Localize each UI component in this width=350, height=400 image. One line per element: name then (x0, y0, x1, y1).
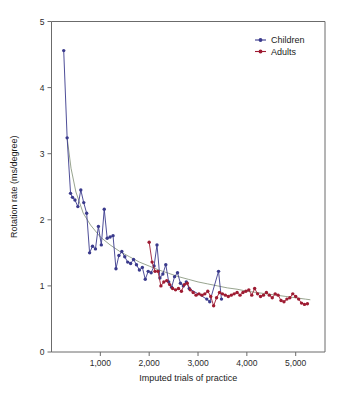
data-point-children (120, 250, 123, 253)
data-point-adults (282, 300, 285, 303)
data-point-adults (159, 284, 162, 287)
data-point-adults (276, 293, 279, 296)
x-tick-label-1,000: 1,000 (90, 358, 112, 368)
data-point-adults (156, 270, 159, 273)
legend-marker-children (259, 38, 263, 42)
x-tick-label-3,000: 3,000 (187, 358, 209, 368)
data-point-children (114, 267, 117, 270)
data-point-adults (150, 260, 153, 263)
data-point-adults (206, 289, 209, 292)
data-point-children (88, 251, 91, 254)
data-point-adults (291, 292, 294, 295)
data-point-children (94, 247, 97, 250)
data-point-adults (153, 270, 156, 273)
data-point-adults (241, 291, 244, 294)
data-point-children (176, 271, 179, 274)
data-point-children (208, 300, 211, 303)
data-point-adults (224, 293, 227, 296)
y-tick-label-3: 3 (40, 149, 45, 159)
data-point-adults (209, 295, 212, 298)
data-point-adults (259, 295, 262, 298)
data-point-children (69, 192, 72, 195)
data-point-adults (183, 283, 186, 286)
data-point-children (103, 208, 106, 211)
data-point-children (123, 255, 126, 258)
data-point-adults (180, 289, 183, 292)
legend-label-children: Children (271, 35, 305, 45)
data-point-adults (244, 289, 247, 292)
data-point-adults (232, 292, 235, 295)
data-point-adults (279, 299, 282, 302)
data-point-children (100, 243, 103, 246)
plot-data-group (62, 49, 310, 308)
legend-label-adults: Adults (271, 47, 297, 57)
data-point-adults (215, 296, 218, 299)
data-point-adults (300, 301, 303, 304)
legend: ChildrenAdults (255, 35, 305, 57)
x-tick-label-4,000: 4,000 (236, 358, 258, 368)
y-tick-label-2: 2 (40, 215, 45, 225)
data-point-children (144, 278, 147, 281)
data-point-adults (218, 291, 221, 294)
data-point-children (105, 237, 108, 240)
data-point-adults (256, 292, 259, 295)
data-point-adults (235, 291, 238, 294)
data-point-adults (238, 293, 241, 296)
data-point-adults (306, 302, 309, 305)
data-point-children (141, 266, 144, 269)
data-point-children (161, 272, 164, 275)
rotation-rate-scatter-line-chart: 0123451,0002,0003,0004,0005,000Imputed t… (0, 0, 350, 400)
data-point-adults (297, 297, 300, 300)
data-point-children (126, 260, 129, 263)
y-tick-label-0: 0 (40, 347, 45, 357)
data-point-adults (285, 297, 288, 300)
data-point-children (71, 196, 74, 199)
data-point-adults (265, 291, 268, 294)
data-point-adults (271, 296, 274, 299)
data-point-adults (268, 293, 271, 296)
data-point-children (173, 275, 176, 278)
data-point-children (91, 245, 94, 248)
data-point-children (135, 263, 138, 266)
data-point-adults (189, 288, 192, 291)
y-tick-label-4: 4 (40, 83, 45, 93)
data-point-adults (191, 291, 194, 294)
data-point-children (73, 198, 76, 201)
x-tick-label-5,000: 5,000 (285, 358, 307, 368)
data-point-children (117, 254, 120, 257)
data-point-children (108, 235, 111, 238)
data-point-children (97, 225, 100, 228)
data-point-adults (212, 304, 215, 307)
data-point-adults (250, 293, 253, 296)
data-point-adults (230, 293, 233, 296)
x-tick-label-2,000: 2,000 (139, 358, 161, 368)
data-point-children (79, 188, 82, 191)
legend-item-adults[interactable]: Adults (255, 47, 297, 57)
data-point-adults (171, 287, 174, 290)
data-point-adults (221, 292, 224, 295)
data-point-children (85, 211, 88, 214)
legend-marker-adults (259, 50, 263, 54)
data-point-adults (247, 288, 250, 291)
data-point-adults (288, 296, 291, 299)
data-point-adults (194, 293, 197, 296)
y-tick-label-5: 5 (40, 17, 45, 27)
data-point-adults (174, 288, 177, 291)
data-point-adults (294, 295, 297, 298)
data-point-adults (262, 293, 265, 296)
data-point-adults (203, 292, 206, 295)
data-point-adults (227, 295, 230, 298)
data-point-children (147, 270, 150, 273)
data-point-children (111, 234, 114, 237)
data-point-children (138, 268, 141, 271)
data-point-children (65, 136, 68, 139)
data-point-adults (147, 241, 150, 244)
data-point-adults (177, 287, 180, 290)
series-line-children (64, 51, 222, 302)
data-point-children (155, 243, 158, 246)
data-point-children (132, 258, 135, 261)
legend-item-children[interactable]: Children (255, 35, 305, 45)
data-point-adults (273, 292, 276, 295)
data-point-children (205, 297, 208, 300)
data-point-adults (168, 283, 171, 286)
